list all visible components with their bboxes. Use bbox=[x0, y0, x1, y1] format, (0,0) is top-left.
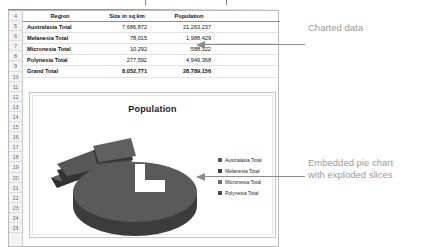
row-number-21[interactable]: 21 bbox=[9, 183, 22, 193]
row-number-20[interactable]: 20 bbox=[9, 173, 22, 183]
pie-chart-svg bbox=[37, 120, 215, 236]
row-number-5[interactable]: 5 bbox=[9, 21, 22, 31]
legend-item[interactable]: Australasia Total bbox=[218, 154, 278, 165]
row-number-14[interactable]: 14 bbox=[9, 112, 22, 122]
cell-size[interactable]: 78,015 bbox=[97, 33, 157, 44]
annotation-pie-chart-line2: with exploded slices bbox=[308, 169, 393, 181]
row-number-6[interactable]: 6 bbox=[9, 31, 22, 41]
row-number-10[interactable]: 10 bbox=[9, 72, 22, 82]
row-number-15[interactable]: 15 bbox=[9, 122, 22, 132]
leader-line-pie-chart bbox=[205, 176, 305, 177]
table-row[interactable]: Melanesia Total78,0151,988,429 bbox=[23, 33, 280, 44]
cell-size[interactable]: 277,592 bbox=[97, 55, 157, 66]
cell-empty[interactable] bbox=[221, 44, 280, 55]
row-number-12[interactable]: 12 bbox=[9, 92, 22, 102]
leader-line-charted-data bbox=[205, 44, 305, 45]
row-number-16[interactable]: 16 bbox=[9, 132, 22, 142]
column-tick bbox=[145, 0, 146, 5]
row-number-9[interactable]: 9 bbox=[9, 61, 22, 71]
pie-chart-graphic[interactable] bbox=[37, 120, 215, 236]
table-row[interactable]: Micronesia Total10,292588,122 bbox=[23, 44, 280, 55]
cell-population[interactable]: 588,122 bbox=[157, 44, 221, 55]
chart-plot-frame: Population bbox=[32, 95, 273, 235]
pie-slice-australasia bbox=[73, 161, 197, 236]
legend-label: Polynesia Total bbox=[225, 190, 259, 196]
annotation-pie-chart-line1: Embedded pie chart bbox=[308, 157, 393, 169]
table-row[interactable]: Australasia Total7,686,87221,263,237 bbox=[23, 22, 280, 33]
cell-empty[interactable] bbox=[221, 33, 280, 44]
arrow-icon bbox=[196, 41, 205, 49]
legend-label: Australasia Total bbox=[225, 157, 262, 163]
cell-size[interactable]: 10,292 bbox=[97, 44, 157, 55]
cell-population[interactable]: 21,263,237 bbox=[157, 22, 221, 33]
row-number-11[interactable]: 11 bbox=[9, 82, 22, 92]
cell-population[interactable]: 1,988,429 bbox=[157, 33, 221, 44]
table-header-row: Region Size in sq km Population bbox=[23, 11, 280, 22]
legend-label: Melanesia Total bbox=[225, 168, 260, 174]
row-number-25[interactable]: 25 bbox=[9, 223, 22, 233]
cell-empty[interactable] bbox=[221, 22, 280, 33]
row-number-13[interactable]: 13 bbox=[9, 102, 22, 112]
legend-swatch-icon bbox=[218, 158, 222, 162]
row-number-18[interactable]: 18 bbox=[9, 152, 22, 162]
embedded-chart-object[interactable]: Population bbox=[29, 92, 276, 238]
column-header-size[interactable]: Size in sq km bbox=[97, 11, 157, 22]
cell-region[interactable]: Grand Total bbox=[23, 66, 97, 77]
arrow-icon bbox=[196, 173, 205, 181]
row-number-4[interactable]: 4 bbox=[9, 11, 22, 21]
row-number-24[interactable]: 24 bbox=[9, 213, 22, 223]
cell-empty[interactable] bbox=[221, 66, 280, 77]
annotation-pie-chart: Embedded pie chart with exploded slices bbox=[308, 157, 393, 181]
annotation-charted-data: Charted data bbox=[308, 22, 363, 34]
column-header-population[interactable]: Population bbox=[157, 11, 221, 22]
legend-swatch-icon bbox=[218, 191, 222, 195]
column-header-empty bbox=[221, 11, 280, 22]
row-number-23[interactable]: 23 bbox=[9, 203, 22, 213]
legend-swatch-icon bbox=[218, 180, 222, 184]
column-tick bbox=[226, 0, 227, 5]
chart-title: Population bbox=[33, 104, 272, 114]
cell-region[interactable]: Melanesia Total bbox=[23, 33, 97, 44]
row-number-17[interactable]: 17 bbox=[9, 142, 22, 152]
legend-item[interactable]: Micronesia Total bbox=[218, 176, 278, 187]
column-header-region[interactable]: Region bbox=[23, 11, 97, 22]
cell-empty[interactable] bbox=[221, 55, 280, 66]
cell-region[interactable]: Australasia Total bbox=[23, 22, 97, 33]
table-row[interactable]: Grand Total8,052,77128,789,156 bbox=[23, 66, 280, 77]
pie-slice-melanesia bbox=[93, 138, 136, 164]
row-number-7[interactable]: 7 bbox=[9, 41, 22, 51]
cell-population[interactable]: 28,789,156 bbox=[157, 66, 221, 77]
row-number-19[interactable]: 19 bbox=[9, 162, 22, 172]
worksheet-panel[interactable]: 45678910111213141516171819202122232425 R… bbox=[8, 10, 279, 247]
row-number-22[interactable]: 22 bbox=[9, 193, 22, 203]
legend-item[interactable]: Polynesia Total bbox=[218, 187, 278, 198]
cell-region[interactable]: Polynesia Total bbox=[23, 55, 97, 66]
table-row[interactable]: Polynesia Total277,5924,949,368 bbox=[23, 55, 280, 66]
legend-swatch-icon bbox=[218, 169, 222, 173]
legend-label: Micronesia Total bbox=[225, 179, 261, 185]
row-number-8[interactable]: 8 bbox=[9, 51, 22, 61]
row-number-gutter[interactable]: 45678910111213141516171819202122232425 bbox=[9, 11, 23, 246]
cell-size[interactable]: 7,686,872 bbox=[97, 22, 157, 33]
legend-item[interactable]: Melanesia Total bbox=[218, 165, 278, 176]
cell-population[interactable]: 4,949,368 bbox=[157, 55, 221, 66]
cell-region[interactable]: Micronesia Total bbox=[23, 44, 97, 55]
table-body: Australasia Total7,686,87221,263,237Mela… bbox=[23, 22, 280, 77]
cell-size[interactable]: 8,052,771 bbox=[97, 66, 157, 77]
